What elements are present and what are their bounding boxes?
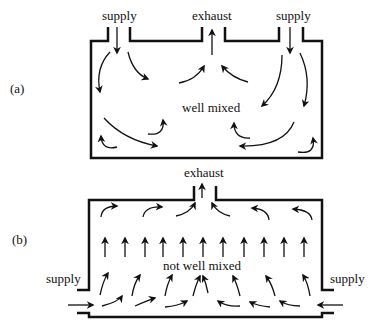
- label-supply-left-b: supply: [46, 272, 81, 286]
- room-b-flows: [68, 184, 343, 307]
- label-supply-right-b: supply: [330, 272, 365, 286]
- room-a-walls: [91, 27, 322, 158]
- label-exhaust-a: exhaust: [192, 9, 232, 23]
- label-exhaust-b: exhaust: [184, 166, 224, 180]
- label-not-well-mixed: not well mixed: [163, 259, 241, 273]
- label-well-mixed: well mixed: [182, 101, 240, 115]
- room-a-flows: [99, 27, 314, 152]
- label-supply-left-a: supply: [102, 9, 137, 23]
- label-supply-right-a: supply: [276, 9, 311, 23]
- label-panel-b: (b): [12, 233, 27, 247]
- ventilation-diagram: supply exhaust supply (a) well mixed exh…: [0, 0, 371, 326]
- label-panel-a: (a): [10, 82, 24, 96]
